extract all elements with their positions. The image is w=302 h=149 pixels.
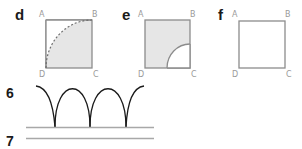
panel-e: e A B C D [122,6,197,79]
panel-f: f A B C D [218,6,292,79]
square-f [239,21,285,68]
vertex-d-f: D [232,70,238,79]
step-6: 6 [6,85,154,128]
vertex-c-e: C [191,70,197,79]
vertex-a-f: A [232,10,238,19]
step-number-7: 7 [6,133,14,149]
geometry-figure: d A B C D e A B C D f A B C D 6 [0,0,302,149]
step-7: 7 [6,133,154,149]
panel-letter-f: f [218,6,224,23]
vertex-b-d: B [92,10,98,19]
arch-2 [90,89,126,127]
panel-d: d A B C D [15,6,99,79]
vertex-c-f: C [286,70,292,79]
half-arch-right [126,86,144,127]
vertex-a-e: A [138,10,144,19]
vertex-b-e: B [190,10,196,19]
arch-1 [55,89,90,127]
half-arch-left [36,86,55,127]
vertex-a-d: A [39,10,45,19]
vertex-d-e: D [138,70,144,79]
panel-letter-e: e [122,6,130,23]
panel-letter-d: d [15,6,24,23]
vertex-b-f: B [285,10,291,19]
step-number-6: 6 [6,85,14,101]
vertex-d-d: D [39,70,45,79]
vertex-c-d: C [93,70,99,79]
